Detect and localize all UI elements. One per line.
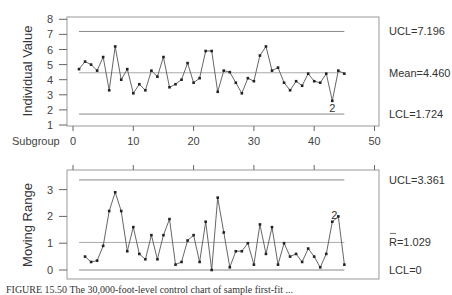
individuals-x-tick-label: 50: [368, 135, 380, 147]
individuals-y-tick-label: 1: [47, 119, 53, 131]
control-chart-figure: 1234567801020304050Individual ValueSubgr…: [0, 0, 452, 284]
individuals-data-point: [295, 80, 298, 83]
moving-range-data-point: [253, 263, 256, 266]
individuals-data-point: [174, 83, 177, 86]
moving-range-data-point: [216, 196, 219, 199]
individuals-data-point: [186, 62, 189, 65]
individuals-data-point: [283, 81, 286, 84]
individuals-data-point: [241, 92, 244, 95]
moving-range-data-point: [90, 261, 93, 264]
individuals-data-point: [108, 89, 111, 92]
moving-range-data-point: [150, 234, 153, 237]
moving-range-data-point: [120, 210, 123, 213]
individuals-ucl-label: UCL=7.196: [389, 25, 445, 37]
moving-range-data-point: [228, 266, 231, 269]
moving-range-data-point: [198, 261, 201, 264]
individuals-data-point: [180, 78, 183, 81]
moving-range-rule-annotation: 2: [331, 209, 337, 221]
individuals-y-tick-label: 8: [47, 13, 53, 25]
moving-range-data-point: [241, 250, 244, 253]
moving-range-data-point: [222, 231, 225, 234]
individuals-data-point: [343, 72, 346, 75]
individuals-data-point: [271, 69, 274, 72]
moving-range-data-point: [265, 253, 268, 256]
individuals-data-point: [235, 81, 238, 84]
individuals-data-point: [259, 54, 262, 57]
moving-range-data-point: [313, 255, 316, 258]
moving-range-data-point: [84, 255, 87, 258]
moving-range-y-tick-label: 3: [47, 184, 53, 196]
moving-range-data-point: [180, 261, 183, 264]
moving-range-data-point: [331, 220, 334, 223]
moving-range-data-point: [277, 263, 280, 266]
individuals-x-tick-label: 0: [70, 135, 76, 147]
individuals-data-point: [337, 69, 340, 72]
moving-range-data-point: [162, 234, 165, 237]
individuals-data-point: [90, 63, 93, 66]
moving-range-data-point: [337, 215, 340, 218]
moving-range-data-point: [210, 269, 213, 272]
individuals-data-point: [168, 86, 171, 89]
individuals-x-tick-label: 10: [127, 135, 139, 147]
individuals-data-point: [253, 80, 256, 83]
individuals-data-point: [325, 72, 328, 75]
individuals-y-tick-label: 3: [47, 89, 53, 101]
individuals-x-tick-label: 40: [308, 135, 320, 147]
moving-range-ucl-label: UCL=3.361: [389, 174, 445, 186]
individuals-data-point: [204, 50, 207, 53]
individuals-y-tick-label: 4: [47, 74, 53, 86]
moving-range-data-point: [289, 255, 292, 258]
individuals-data-point: [222, 69, 225, 72]
moving-range-y-axis-title: Moving Range: [20, 183, 35, 267]
moving-range-data-point: [132, 226, 135, 229]
individuals-data-point: [313, 80, 316, 83]
individuals-data-point: [247, 77, 250, 80]
moving-range-data-point: [102, 245, 105, 248]
individuals-data-point: [265, 45, 268, 48]
individuals-y-tick-label: 5: [47, 59, 53, 71]
individuals-data-point: [144, 89, 147, 92]
individuals-y-tick-label: 2: [47, 104, 53, 116]
moving-range-data-point: [168, 218, 171, 221]
individuals-data-point: [114, 45, 117, 48]
moving-range-center-label: R=1.029: [389, 236, 431, 248]
individuals-data-point: [210, 50, 213, 53]
individuals-data-point: [198, 77, 201, 80]
individuals-x-tick-label: 20: [187, 135, 199, 147]
individuals-series-line: [79, 47, 344, 101]
individuals-data-point: [307, 72, 310, 75]
moving-range-y-tick-label: 1: [47, 237, 53, 249]
individuals-rule-annotation: 2: [329, 102, 335, 114]
individuals-data-point: [102, 56, 105, 59]
individuals-data-point: [192, 81, 195, 84]
individuals-data-point: [289, 89, 292, 92]
individuals-data-point: [150, 69, 153, 72]
moving-range-data-point: [343, 263, 346, 266]
individuals-data-point: [132, 92, 135, 95]
moving-range-data-point: [138, 253, 141, 256]
individuals-y-axis-title: Individual Value: [20, 26, 35, 117]
moving-range-data-point: [156, 258, 159, 261]
individuals-data-point: [126, 68, 129, 71]
individuals-data-point: [228, 71, 231, 74]
moving-range-data-point: [325, 253, 328, 256]
moving-range-data-point: [192, 234, 195, 237]
individuals-data-point: [156, 75, 159, 78]
individuals-data-point: [84, 60, 87, 63]
moving-range-data-point: [307, 247, 310, 250]
individuals-x-tick-label: 30: [248, 135, 260, 147]
figure-caption: FIGURE 15.50 The 30,000-foot-level contr…: [6, 284, 293, 295]
moving-range-data-point: [319, 266, 322, 269]
moving-range-data-point: [204, 220, 207, 223]
individuals-data-point: [216, 90, 219, 93]
moving-range-data-point: [126, 250, 129, 253]
moving-range-series-line: [85, 192, 344, 270]
moving-range-data-point: [114, 191, 117, 194]
moving-range-data-point: [259, 223, 262, 226]
individuals-data-point: [138, 83, 141, 86]
moving-range-data-point: [108, 210, 111, 213]
moving-range-y-tick-label: 0: [47, 264, 53, 276]
moving-range-data-point: [283, 242, 286, 245]
individuals-y-tick-label: 6: [47, 44, 53, 56]
moving-range-y-tick-label: 2: [47, 210, 53, 222]
